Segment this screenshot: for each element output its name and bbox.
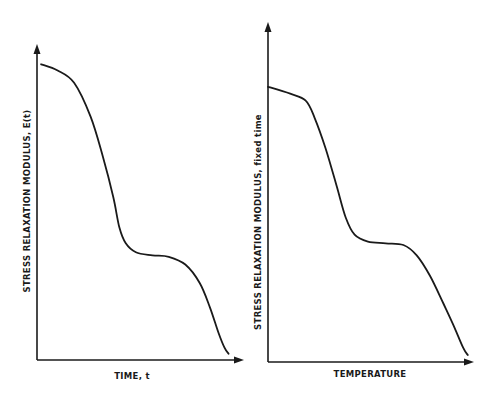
right-x-axis-label: TEMPERATURE bbox=[334, 369, 407, 379]
right-series-line bbox=[268, 87, 468, 355]
left-x-axis-arrow-icon bbox=[234, 357, 244, 364]
left-series-line bbox=[41, 64, 229, 354]
left-y-axis-arrow-icon bbox=[34, 44, 41, 54]
right-y-axis-label: STRESS RELAXATION MODULUS, fixed time bbox=[253, 114, 263, 330]
right-y-axis-arrow-icon bbox=[265, 22, 272, 32]
chart-right: TEMPERATURE STRESS RELAXATION MODULUS, f… bbox=[253, 22, 474, 379]
left-y-axis-label: STRESS RELAXATION MODULUS, E(t) bbox=[22, 109, 32, 292]
chart-left: TIME, t STRESS RELAXATION MODULUS, E(t) bbox=[22, 44, 244, 381]
left-x-axis-label: TIME, t bbox=[114, 371, 150, 381]
figure: TIME, t STRESS RELAXATION MODULUS, E(t) … bbox=[0, 0, 486, 401]
right-x-axis-arrow-icon bbox=[464, 359, 474, 366]
